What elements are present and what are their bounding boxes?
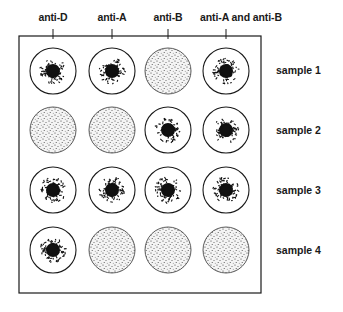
well-agglutinated bbox=[145, 167, 191, 213]
well-agglutinated bbox=[30, 167, 76, 213]
well-agglutinated bbox=[30, 48, 76, 94]
well-no-agglutination bbox=[203, 227, 249, 273]
well-no-agglutination bbox=[89, 227, 135, 273]
well-no-agglutination bbox=[145, 48, 191, 94]
well-agglutinated bbox=[145, 107, 191, 153]
well-agglutinated bbox=[203, 167, 249, 213]
well-no-agglutination bbox=[145, 227, 191, 273]
well-agglutinated bbox=[89, 167, 135, 213]
well-agglutinated bbox=[203, 107, 249, 153]
wells bbox=[30, 48, 249, 273]
well-no-agglutination bbox=[89, 107, 135, 153]
typing-card bbox=[0, 0, 343, 312]
well-no-agglutination bbox=[30, 107, 76, 153]
well-agglutinated bbox=[30, 227, 76, 273]
column-ticks bbox=[53, 29, 226, 39]
well-agglutinated bbox=[89, 48, 135, 94]
well-agglutinated bbox=[203, 48, 249, 94]
